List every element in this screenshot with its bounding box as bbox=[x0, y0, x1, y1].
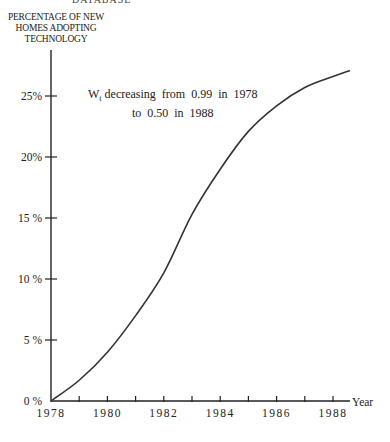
x-tick-label: 1980 bbox=[93, 407, 122, 419]
x-tick-label: 1988 bbox=[319, 407, 348, 419]
y-tick-label: 15 % bbox=[18, 212, 42, 224]
annotation-line2: to 0.50 in 1988 bbox=[88, 106, 258, 121]
x-tick-label: 1986 bbox=[262, 407, 291, 419]
chart-plot: 0 %5 %10 %15 %20%25% 1978198019821984198… bbox=[0, 0, 390, 442]
x-tick-label: 1982 bbox=[149, 407, 178, 419]
annotation-line1: Wt decreasing from 0.99 in 1978 bbox=[88, 87, 258, 101]
y-tick-label: 5 % bbox=[24, 334, 43, 346]
annotation: Wt decreasing from 0.99 in 1978 to 0.50 … bbox=[88, 87, 258, 121]
y-tick-label: 0 % bbox=[24, 395, 43, 407]
y-tick-label: 25% bbox=[21, 90, 43, 102]
y-tick-label: 10 % bbox=[18, 273, 42, 285]
x-axis-ticks: 197819801982198419861988 bbox=[37, 396, 348, 419]
y-tick-label: 20% bbox=[21, 151, 43, 163]
x-tick-label: 1984 bbox=[206, 407, 235, 419]
x-axis-label: Year bbox=[352, 396, 373, 408]
x-tick-label: 1978 bbox=[37, 407, 66, 419]
